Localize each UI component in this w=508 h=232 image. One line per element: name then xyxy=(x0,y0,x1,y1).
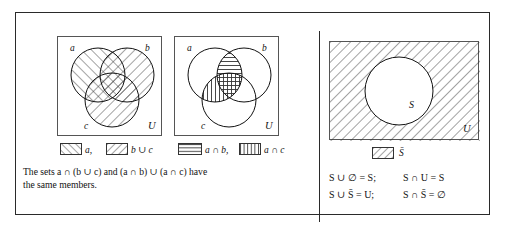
key-label-a-intersect-b: a ∩ b, xyxy=(205,146,229,156)
key-swatch-s-complement-pattern xyxy=(373,148,393,158)
venn-left-label-universe: U xyxy=(148,121,156,132)
venn-middle-label-a: a xyxy=(187,44,192,54)
key-swatch-b-union-c xyxy=(106,143,128,155)
key-swatch-a-intersect-b xyxy=(178,143,202,155)
key-swatch-a xyxy=(60,143,82,155)
venn-left-label-a: a xyxy=(70,44,75,54)
region-complement-shade xyxy=(330,42,480,141)
key-swatch-a-pattern xyxy=(61,144,81,154)
key-label-a: a, xyxy=(85,146,92,156)
panel-right: S U S̄ S ∪ ∅ = S; S ∩ U = S S ∪ S̄ = U; xyxy=(319,13,491,213)
key-swatch-a-intersect-c-pattern xyxy=(240,144,260,154)
law-row-1-right: S ∩ U = S xyxy=(403,173,444,183)
law-row-2-right: S ∩ S̄ = ∅ xyxy=(403,190,446,200)
venn-right-label-universe: U xyxy=(463,124,471,135)
key-label-a-intersect-c: a ∩ c xyxy=(264,146,285,156)
key-swatch-a-intersect-c xyxy=(239,143,261,155)
venn-left-label-b: b xyxy=(145,44,150,54)
caption-line-2: the same members. xyxy=(23,178,97,191)
venn-middle-label-b: b xyxy=(262,44,267,54)
venn-box-middle: a b c U xyxy=(174,36,279,136)
figure-outer-frame: a b c U a, xyxy=(15,12,490,215)
key-swatch-s-complement xyxy=(372,147,394,159)
key-label-s-complement: S̄ xyxy=(399,149,404,159)
venn-left-label-c: c xyxy=(84,122,88,132)
key-swatch-b-union-c-pattern xyxy=(107,144,127,154)
panel-middle: a b c U a ∩ b, xyxy=(166,13,319,213)
venn-right-svg xyxy=(330,42,480,141)
venn-box-right: S U xyxy=(329,41,479,140)
venn-middle-label-universe: U xyxy=(265,121,273,132)
law-row-2-left: S ∪ S̄ = U; xyxy=(329,190,374,200)
venn-middle-label-c: c xyxy=(201,122,205,132)
law-row-1-left: S ∪ ∅ = S; xyxy=(329,173,376,183)
caption-line-1: The sets a ∩ (b ∪ c) and (a ∩ b) ∪ (a ∩ … xyxy=(23,165,207,178)
venn-right-label-s: S xyxy=(409,99,414,110)
venn-figure: a b c U a, xyxy=(0,0,508,232)
key-swatch-a-intersect-b-pattern xyxy=(179,144,201,154)
key-label-b-union-c: b ∪ c xyxy=(131,146,153,156)
venn-box-left: a b c U xyxy=(57,36,162,136)
